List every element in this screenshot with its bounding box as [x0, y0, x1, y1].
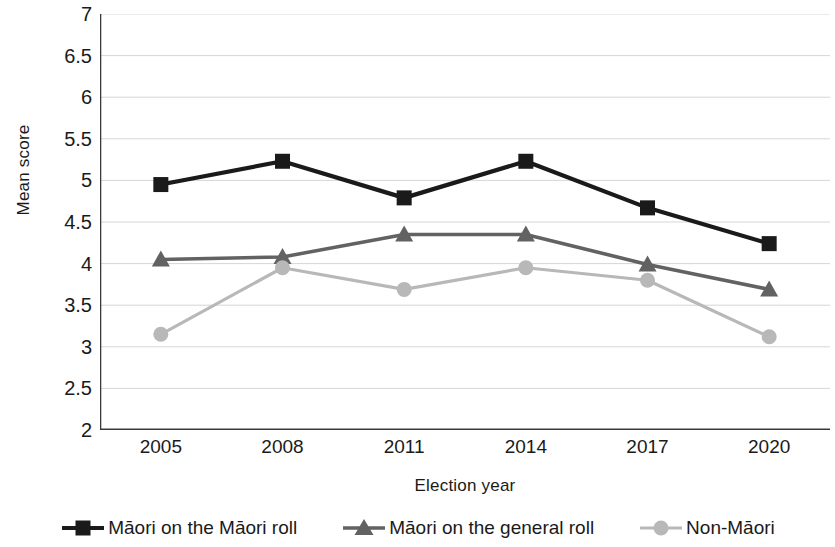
legend-circle [654, 520, 669, 535]
y-tick-label: 4 [0, 254, 92, 274]
legend-label: Māori on the general roll [389, 518, 594, 537]
data-point-square [518, 154, 533, 169]
y-axis-tick-labels: 22.533.544.555.566.57 [0, 0, 92, 440]
y-tick-label: 5 [0, 170, 92, 190]
y-tick-label: 6 [0, 87, 92, 107]
x-tick-label: 2011 [384, 437, 425, 456]
x-tick-label: 2008 [261, 437, 303, 456]
data-point-circle [640, 273, 655, 288]
data-point-circle [153, 327, 168, 342]
data-point-square [275, 154, 290, 169]
y-tick-label: 7 [0, 4, 92, 24]
y-tick-label: 3.5 [0, 295, 92, 315]
legend-label: Non-Māori [686, 518, 775, 537]
y-tick-label: 6.5 [0, 46, 92, 66]
data-point-circle [762, 329, 777, 344]
x-axis-tick-labels: 200520082011201420172020 [100, 437, 830, 471]
legend-label: Māori on the Māori roll [108, 518, 297, 537]
plot-svg [100, 14, 830, 430]
data-point-circle [275, 260, 290, 275]
y-tick-label: 3 [0, 337, 92, 357]
legend-marker-circle-icon [638, 517, 684, 539]
series-line [161, 161, 769, 243]
legend-item[interactable]: Māori on the Māori roll [60, 517, 297, 539]
data-point-square [153, 177, 168, 192]
x-tick-label: 2005 [140, 437, 182, 456]
x-axis-title: Election year [100, 476, 830, 496]
series-line [161, 234, 769, 289]
x-tick-label: 2014 [505, 437, 547, 456]
y-tick-label: 5.5 [0, 129, 92, 149]
x-tick-label: 2020 [748, 437, 790, 456]
legend-square [76, 520, 91, 535]
chart-legend: Māori on the Māori rollMāori on the gene… [0, 508, 835, 547]
series-line [161, 268, 769, 337]
y-tick-label: 2.5 [0, 378, 92, 398]
y-tick-label: 2 [0, 420, 92, 440]
line-chart-figure: Mean score 22.533.544.555.566.57 2005200… [0, 0, 835, 547]
data-point-square [762, 236, 777, 251]
data-point-square [397, 190, 412, 205]
data-point-circle [518, 260, 533, 275]
data-point-square [640, 200, 655, 215]
plot-area [100, 14, 830, 430]
legend-marker-triangle-icon [341, 517, 387, 539]
legend-item[interactable]: Māori on the general roll [341, 517, 594, 539]
x-tick-label: 2017 [626, 437, 668, 456]
legend-item[interactable]: Non-Māori [638, 517, 775, 539]
y-tick-label: 4.5 [0, 212, 92, 232]
data-point-circle [397, 282, 412, 297]
legend-marker-square-icon [60, 517, 106, 539]
